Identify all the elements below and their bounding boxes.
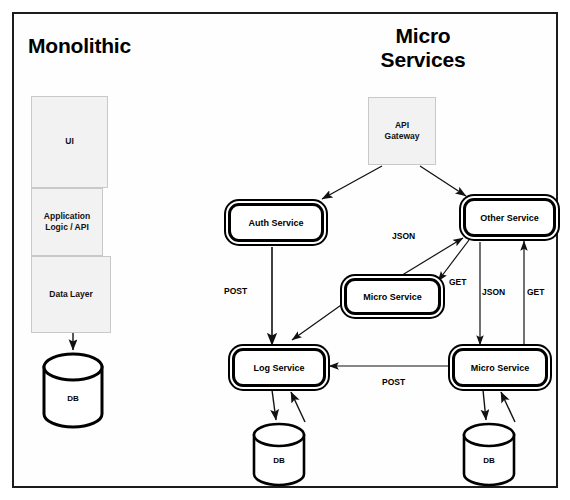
cylinder-shape — [252, 422, 306, 488]
node-data-layer[interactable]: Data Layer — [31, 256, 111, 333]
edge-log-to-db — [272, 390, 276, 420]
node-log-db[interactable]: DB — [252, 422, 306, 488]
edge-gateway-to-auth — [322, 166, 382, 199]
edge-db-to-log — [291, 392, 305, 422]
edge-label-json-other-microright: JSON — [482, 287, 505, 297]
db-label: DB — [462, 456, 516, 465]
edge-micro-to-log — [292, 303, 344, 340]
cylinder-shape — [462, 422, 516, 488]
node-auth-service[interactable]: Auth Service — [228, 203, 324, 242]
diagram-canvas: Monolithic Micro Services UI Application… — [0, 0, 570, 500]
node-micro-service-right[interactable]: Micro Service — [452, 348, 548, 387]
edge-label-json-micro-other: JSON — [392, 231, 415, 241]
edge-other-to-micro-get — [438, 240, 469, 281]
node-api-gateway[interactable]: API Gateway — [368, 97, 436, 165]
node-log-service[interactable]: Log Service — [232, 348, 326, 387]
node-micro-service-mid[interactable]: Micro Service — [344, 278, 441, 315]
edge-micro-to-other-json — [399, 238, 463, 277]
edge-label-post-microright-log: POST — [382, 377, 405, 387]
edge-db-to-microright — [501, 392, 515, 422]
panel-title-monolithic: Monolithic — [28, 34, 131, 58]
node-other-service[interactable]: Other Service — [463, 198, 556, 237]
node-monolith-db[interactable]: DB — [42, 352, 104, 430]
db-label: DB — [42, 394, 104, 403]
node-micro-db[interactable]: DB — [462, 422, 516, 488]
edge-label-get-other-micro: GET — [449, 277, 466, 287]
edge-microright-to-db — [483, 390, 486, 420]
panel-title-microservices: Micro Services — [358, 24, 488, 72]
edge-label-get-microright-other: GET — [527, 287, 544, 297]
node-ui[interactable]: UI — [31, 96, 108, 188]
edge-gateway-to-other — [420, 166, 466, 196]
node-application-logic[interactable]: Application Logic / API — [31, 188, 103, 256]
edge-label-post-auth-log: POST — [224, 286, 247, 296]
db-label: DB — [252, 456, 306, 465]
cylinder-shape — [42, 352, 104, 430]
